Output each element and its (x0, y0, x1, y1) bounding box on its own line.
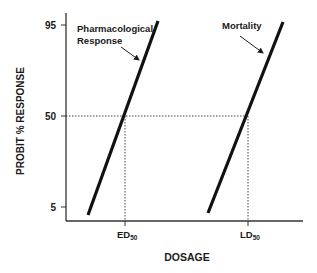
probit-chart: 95 50 5 ED50 LD50 PROBIT % RESPONSE DOSA… (0, 0, 317, 273)
x-tick-label-ld50: LD50 (240, 229, 260, 241)
y-tick-label-50: 50 (45, 111, 57, 122)
ld-sub: 50 (253, 234, 261, 241)
x-tick-label-ed50: ED50 (117, 229, 138, 241)
x-axis-title: DOSAGE (164, 251, 210, 263)
mortality-line (208, 22, 283, 213)
mortality-label: Mortality (222, 20, 262, 31)
pharmacological-response-line (88, 21, 158, 215)
y-tick-label-95: 95 (45, 20, 57, 31)
mortality-arrow-icon (240, 36, 263, 53)
reference-lines (66, 116, 248, 221)
y-tick-label-5: 5 (50, 202, 56, 213)
y-axis-title: PROBIT % RESPONSE (15, 67, 26, 175)
ed-main: ED (117, 229, 130, 240)
pharmacological-arrow-icon (121, 47, 139, 60)
pharmacological-label-line2: Response (77, 35, 122, 46)
ed-sub: 50 (130, 234, 138, 241)
pharmacological-label-line1: Pharmacological (77, 23, 153, 34)
ld-main: LD (240, 229, 253, 240)
